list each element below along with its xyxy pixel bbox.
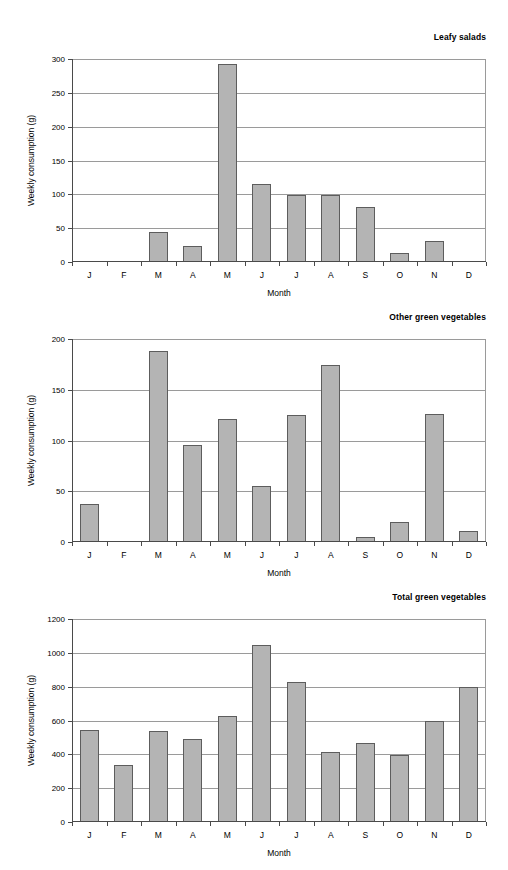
x-tick-label: A <box>328 270 334 280</box>
x-tick-mark <box>141 822 142 826</box>
y-tick-label: 200 <box>52 335 65 344</box>
y-axis-title: Weekly consumption (g) <box>14 619 26 822</box>
x-tick-mark <box>245 822 246 826</box>
bar <box>356 207 375 262</box>
bar <box>287 415 306 542</box>
x-tick-mark <box>452 542 453 546</box>
x-tick-label: M <box>224 830 231 840</box>
y-tick-label: 0 <box>61 818 65 827</box>
gridline <box>72 228 486 229</box>
x-tick-mark <box>486 262 487 266</box>
bar <box>218 716 237 822</box>
x-tick-mark <box>314 262 315 266</box>
bar <box>252 184 271 262</box>
x-tick-label: O <box>396 550 403 560</box>
x-tick-label: J <box>260 830 264 840</box>
x-tick-mark <box>279 262 280 266</box>
y-tick-label: 150 <box>52 156 65 165</box>
y-tick-label: 800 <box>52 682 65 691</box>
x-tick-mark <box>486 822 487 826</box>
x-tick-mark <box>210 542 211 546</box>
x-tick-mark <box>176 262 177 266</box>
figure-page: Leafy saladsWeekly consumption (g)050100… <box>0 0 508 870</box>
y-axis-line <box>72 59 73 262</box>
x-tick-label: J <box>294 830 298 840</box>
x-tick-mark <box>107 262 108 266</box>
x-tick-label: O <box>396 830 403 840</box>
gridline <box>72 161 486 162</box>
x-axis-title: Month <box>72 848 486 858</box>
x-tick-mark <box>279 822 280 826</box>
x-tick-label: A <box>328 550 334 560</box>
y-tick-label: 150 <box>52 385 65 394</box>
x-tick-label: N <box>431 550 437 560</box>
bar <box>149 351 168 542</box>
x-tick-label: J <box>87 830 91 840</box>
x-tick-label: M <box>224 550 231 560</box>
y-axis-line <box>72 619 73 822</box>
y-tick-label: 100 <box>52 436 65 445</box>
x-tick-label: J <box>294 550 298 560</box>
y-axis-line <box>72 339 73 542</box>
x-tick-mark <box>417 542 418 546</box>
x-tick-label: A <box>328 830 334 840</box>
x-tick-mark <box>210 822 211 826</box>
x-axis-title: Month <box>72 568 486 578</box>
y-tick-label: 1200 <box>47 615 65 624</box>
x-tick-label: S <box>362 270 368 280</box>
bar <box>149 731 168 822</box>
x-tick-label: F <box>121 830 126 840</box>
y-tick-label: 50 <box>56 224 65 233</box>
bar <box>287 195 306 262</box>
y-tick-label: 0 <box>61 538 65 547</box>
plot-area-total-green-vegetables: 020040060080010001200JFMAMJJASOND <box>72 619 486 822</box>
bar <box>218 64 237 262</box>
chart-panel-leafy-salads: Leafy saladsWeekly consumption (g)050100… <box>0 20 508 300</box>
x-tick-mark <box>452 822 453 826</box>
x-tick-mark <box>348 262 349 266</box>
x-tick-mark <box>314 822 315 826</box>
x-tick-mark <box>72 262 73 266</box>
x-axis-line <box>72 541 486 542</box>
x-tick-mark <box>72 542 73 546</box>
x-tick-label: M <box>155 830 162 840</box>
x-tick-label: J <box>260 270 264 280</box>
x-tick-label: A <box>190 550 196 560</box>
x-tick-label: A <box>190 270 196 280</box>
x-tick-mark <box>417 262 418 266</box>
x-tick-mark <box>107 542 108 546</box>
x-axis-line <box>72 821 486 822</box>
bar <box>149 232 168 262</box>
plot-frame-top <box>72 339 486 340</box>
x-axis-title: Month <box>72 288 486 298</box>
x-axis-line <box>72 261 486 262</box>
plot-area-leafy-salads: 050100150200250300JFMAMJJASOND <box>72 59 486 262</box>
x-tick-label: O <box>396 270 403 280</box>
bar <box>183 739 202 822</box>
x-tick-mark <box>141 542 142 546</box>
bar <box>321 752 340 822</box>
bar <box>287 682 306 822</box>
bar <box>218 419 237 542</box>
gridline <box>72 390 486 391</box>
x-tick-mark <box>245 262 246 266</box>
chart-panel-total-green-vegetables: Total green vegetablesWeekly consumption… <box>0 580 508 860</box>
y-axis-title: Weekly consumption (g) <box>14 339 26 542</box>
x-tick-label: F <box>121 270 126 280</box>
plot-frame-top <box>72 59 486 60</box>
x-tick-mark <box>279 542 280 546</box>
x-tick-label: S <box>362 830 368 840</box>
x-tick-mark <box>245 542 246 546</box>
bar <box>252 486 271 542</box>
x-tick-mark <box>383 822 384 826</box>
x-tick-label: D <box>466 830 472 840</box>
y-tick-label: 50 <box>56 487 65 496</box>
x-tick-label: D <box>466 550 472 560</box>
x-tick-mark <box>348 822 349 826</box>
x-tick-mark <box>176 822 177 826</box>
x-tick-mark <box>417 822 418 826</box>
y-tick-label: 600 <box>52 716 65 725</box>
x-tick-mark <box>348 542 349 546</box>
bar <box>356 743 375 822</box>
bar <box>114 765 133 822</box>
